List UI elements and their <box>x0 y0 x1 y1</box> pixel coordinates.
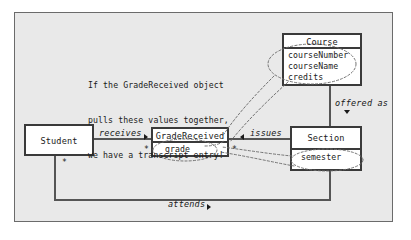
arrow-right-icon-attends <box>207 204 211 210</box>
diagram-canvas: If the GradeReceived object pulls these … <box>0 0 411 240</box>
attribute-coursename: courseName <box>288 62 338 72</box>
class-name-section: Section <box>291 133 361 143</box>
arrow-right-icon-receives <box>144 134 148 140</box>
association-label-offered-as: offered as <box>335 98 388 108</box>
attribute-credits: credits <box>288 73 323 83</box>
attribute-coursenumber: courseNumber <box>288 51 348 61</box>
annotation-note-line-2: pulls these values together, <box>88 115 229 127</box>
multiplicity-gradereceived-left: * <box>144 145 149 154</box>
arrow-down-icon-offered-as <box>344 110 350 114</box>
class-name-gradereceived: GradeReceived <box>152 131 228 141</box>
class-name-course: Course <box>283 37 361 47</box>
annotation-note: If the GradeReceived object pulls these … <box>88 57 229 185</box>
association-label-attends: attends <box>168 199 205 209</box>
association-label-issues: issues <box>250 128 282 138</box>
arrow-left-icon-issues <box>240 134 244 140</box>
annotation-note-line-3: we have a transcript entry! <box>88 150 229 162</box>
multiplicity-gradereceived-right: * <box>232 145 237 154</box>
class-name-student: Student <box>25 136 93 146</box>
multiplicity-student-attends: * <box>62 158 67 167</box>
association-label-receives: receives <box>99 128 142 138</box>
attribute-grade: grade <box>165 145 190 155</box>
callout-connector-course-a <box>224 76 274 134</box>
attribute-semester: semester <box>301 153 341 163</box>
annotation-note-line-1: If the GradeReceived object <box>88 80 229 92</box>
